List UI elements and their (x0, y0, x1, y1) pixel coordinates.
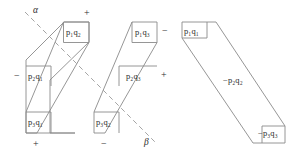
term-p1q1: p₁q₁ (184, 27, 199, 36)
diagram-vector-layer (0, 0, 302, 159)
term-p1q2: p₁q₂ (66, 28, 81, 37)
term-p3q2: p₃q₂ (96, 118, 111, 127)
term-minus-p2q2: −p₂q₂ (223, 76, 243, 85)
diagram-canvas: α β + p₁q₂ p₁q₃ − − p₂q₁ p₂q₃ + p₃q₁ p₃q… (0, 0, 302, 159)
sign-right-of-p1q3: − (162, 26, 168, 36)
sign-right-of-p2q3: + (161, 70, 167, 80)
sign-left-of-p2q1: − (14, 71, 20, 81)
term-p2q1: p₂q₁ (28, 72, 43, 81)
alpha-label: α (33, 6, 38, 16)
term-p1q3: p₁q₃ (135, 28, 150, 37)
sign-below-p3q1: + (33, 139, 39, 149)
term-p2q3: p₂q₃ (126, 72, 141, 81)
sign-top-center: + (84, 8, 90, 18)
term-minus-p3q3: −p₃q₃ (258, 129, 278, 138)
sign-below-p3q2: − (101, 139, 107, 149)
term-p3q1: p₃q₁ (28, 118, 43, 127)
beta-label: β (144, 138, 149, 148)
